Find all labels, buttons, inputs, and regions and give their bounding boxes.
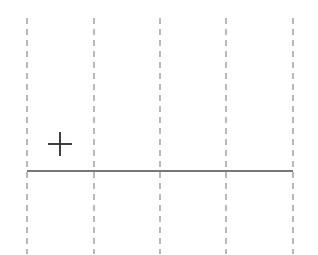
diagram-canvas: [0, 0, 318, 255]
plus-icon: [48, 132, 72, 156]
vertical-dashed-gridlines: [27, 18, 293, 254]
